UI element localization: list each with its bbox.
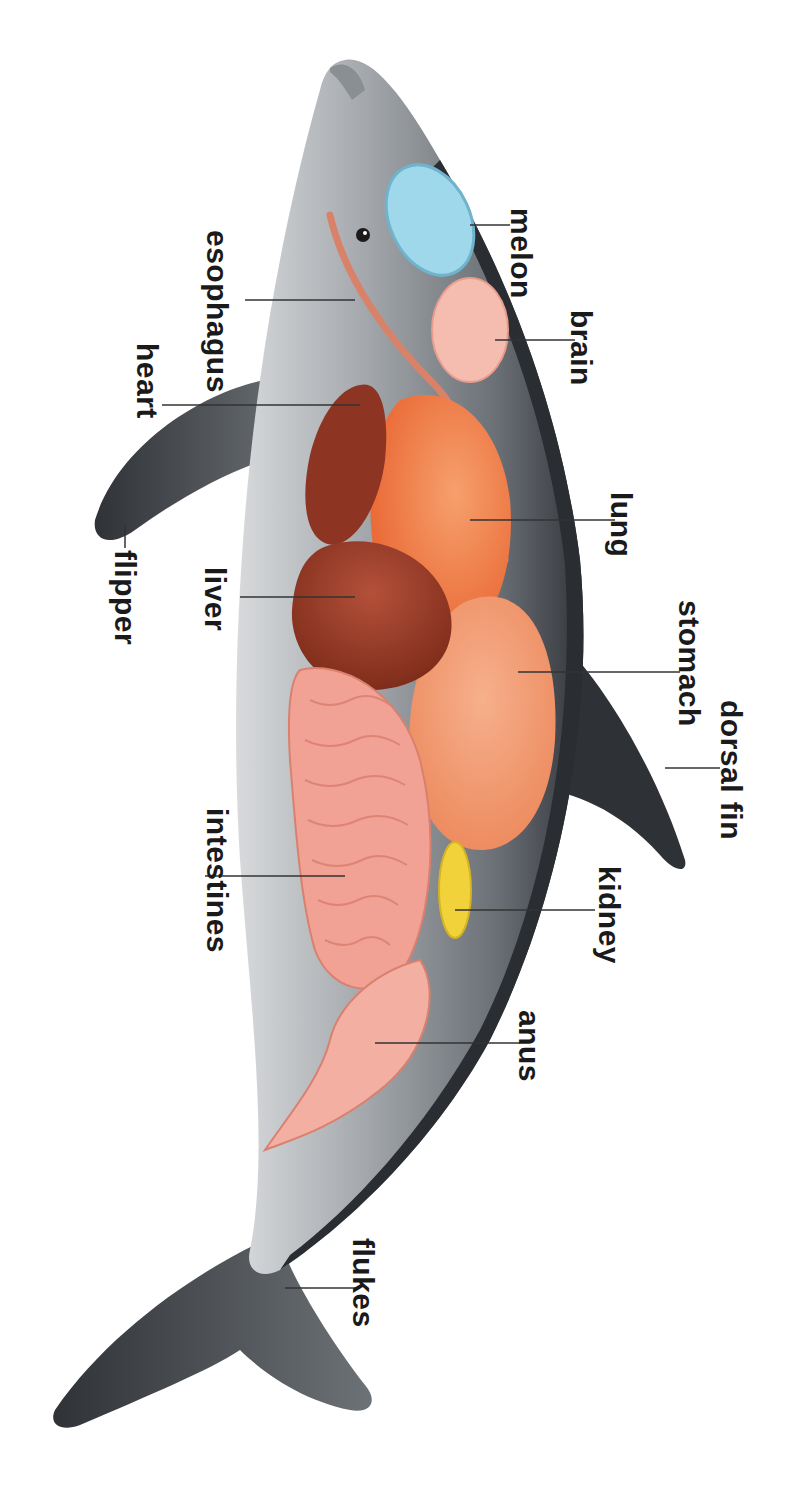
flukes-shape xyxy=(53,1240,372,1428)
label-dorsal-fin: dorsal fin xyxy=(714,700,748,840)
label-flukes: flukes xyxy=(346,1238,380,1328)
kidney-organ xyxy=(439,842,471,938)
eye xyxy=(356,228,370,242)
dolphin-illustration xyxy=(0,0,794,1495)
label-flipper: flipper xyxy=(108,550,142,645)
label-liver: liver xyxy=(198,567,232,631)
label-heart: heart xyxy=(130,343,164,419)
label-kidney: kidney xyxy=(592,866,626,964)
label-brain: brain xyxy=(564,310,598,386)
label-intestines: intestines xyxy=(200,808,234,953)
brain-organ xyxy=(432,278,508,382)
label-anus: anus xyxy=(512,1010,546,1082)
label-melon: melon xyxy=(504,208,538,299)
label-lung: lung xyxy=(604,492,638,557)
label-stomach: stomach xyxy=(672,600,706,727)
label-esophagus: esophagus xyxy=(200,230,234,393)
